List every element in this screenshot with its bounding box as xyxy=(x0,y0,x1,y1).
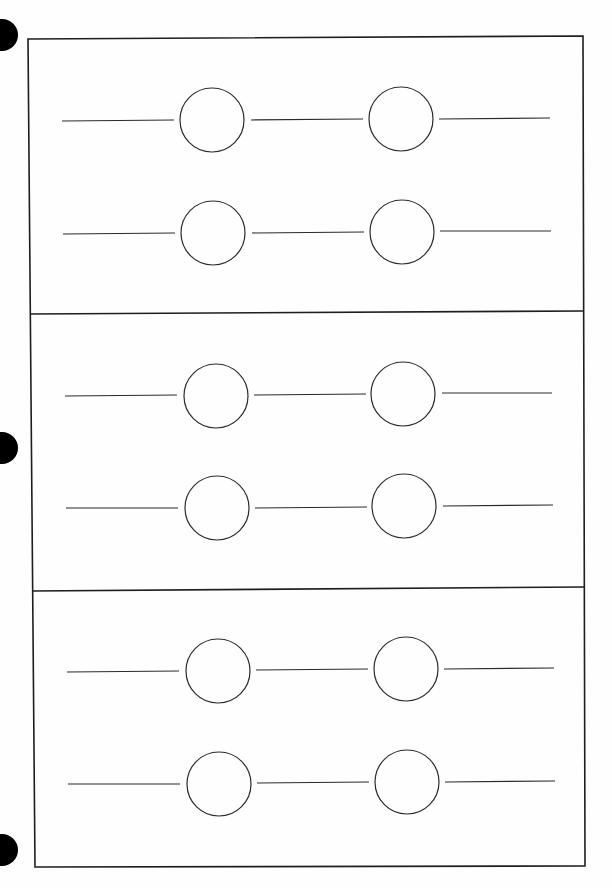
panel-dividers xyxy=(30,311,585,591)
worksheet-canvas xyxy=(0,0,612,888)
blank-line xyxy=(67,671,179,672)
answer-row xyxy=(66,474,553,540)
blank-line xyxy=(62,120,174,121)
panel-1 xyxy=(62,87,551,265)
blank-circle xyxy=(375,750,439,814)
panel-2 xyxy=(65,362,553,540)
answer-row xyxy=(62,87,550,152)
panel-divider xyxy=(30,311,584,314)
answer-row xyxy=(67,637,554,703)
blank-circle xyxy=(181,201,245,265)
blank-circle xyxy=(184,364,248,428)
blank-circle xyxy=(369,87,433,151)
blank-line xyxy=(444,668,554,669)
blank-line xyxy=(255,507,367,508)
blank-line xyxy=(251,119,363,120)
punch-hole xyxy=(0,834,18,866)
panel-divider xyxy=(32,587,585,591)
blank-line xyxy=(63,233,175,234)
blank-line xyxy=(443,505,553,506)
blank-circle xyxy=(180,88,244,152)
frame-border xyxy=(28,36,585,867)
blank-circle xyxy=(372,474,436,538)
outer-frame xyxy=(28,36,585,867)
blank-line xyxy=(439,118,550,119)
blank-line xyxy=(65,395,177,396)
punch-holes xyxy=(0,19,18,866)
worksheet-page xyxy=(0,0,612,888)
blank-circle xyxy=(370,200,434,264)
answer-row xyxy=(68,750,555,816)
blank-line xyxy=(256,669,368,670)
blank-circle xyxy=(371,362,435,426)
answer-row xyxy=(65,362,552,428)
blank-circle xyxy=(186,639,250,703)
blank-line xyxy=(257,782,369,783)
blank-circle xyxy=(187,752,251,816)
punch-hole xyxy=(0,19,18,51)
blank-line xyxy=(445,781,555,782)
blank-circle xyxy=(185,476,249,540)
blank-circle xyxy=(374,637,438,701)
punch-hole xyxy=(0,432,18,464)
blank-line xyxy=(254,394,366,395)
answer-row xyxy=(63,200,551,265)
panel-3 xyxy=(67,637,555,816)
panels xyxy=(62,87,555,816)
blank-line xyxy=(252,232,364,233)
